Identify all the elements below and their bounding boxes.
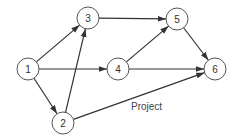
node-5: 5 (166, 8, 188, 30)
project-network-diagram: 123456 (0, 0, 239, 139)
edge-1-to-2 (34, 78, 57, 114)
edge-2-to-6 (73, 73, 204, 120)
node-2: 2 (52, 112, 74, 134)
node-1: 1 (17, 58, 39, 80)
node-3: 3 (77, 7, 99, 29)
node-label: 4 (115, 64, 121, 75)
node-label: 1 (25, 64, 31, 75)
node-label: 5 (174, 14, 180, 25)
edge-5-to-6 (184, 28, 209, 60)
node-label: 6 (212, 64, 218, 75)
nodes-group: 123456 (17, 7, 226, 134)
node-label: 3 (85, 13, 91, 24)
edge-2-to-3 (66, 29, 86, 113)
node-4: 4 (107, 58, 129, 80)
edge-1-to-3 (36, 25, 79, 62)
node-6: 6 (204, 58, 226, 80)
diagram-caption: Project (131, 101, 162, 112)
edge-4-to-5 (126, 26, 168, 62)
node-label: 2 (60, 118, 66, 129)
edge-3-to-5 (99, 18, 166, 19)
